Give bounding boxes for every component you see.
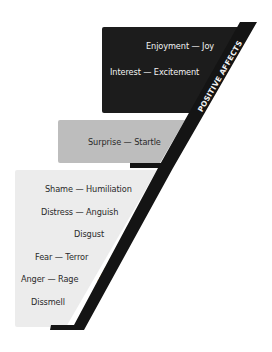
negative-item-anger-rage: Anger — Rage (21, 274, 78, 284)
neutral-item-surprise-startle: Surprise — Startle (88, 137, 161, 147)
positive-item-interest-excitement: Interest — Excitement (110, 67, 199, 77)
negative-item-fear-terror: Fear — Terror (35, 252, 88, 262)
affect-diagram: Enjoyment — Joy Interest — Excitement PO… (0, 0, 272, 352)
negative-item-dissmell: Dissmell (31, 297, 65, 307)
negative-item-shame-humiliation: Shame — Humiliation (45, 184, 132, 194)
positive-item-enjoyment-joy: Enjoyment — Joy (146, 41, 214, 51)
negative-item-distress-anguish: Distress — Anguish (41, 207, 118, 217)
negative-item-disgust: Disgust (74, 229, 104, 239)
